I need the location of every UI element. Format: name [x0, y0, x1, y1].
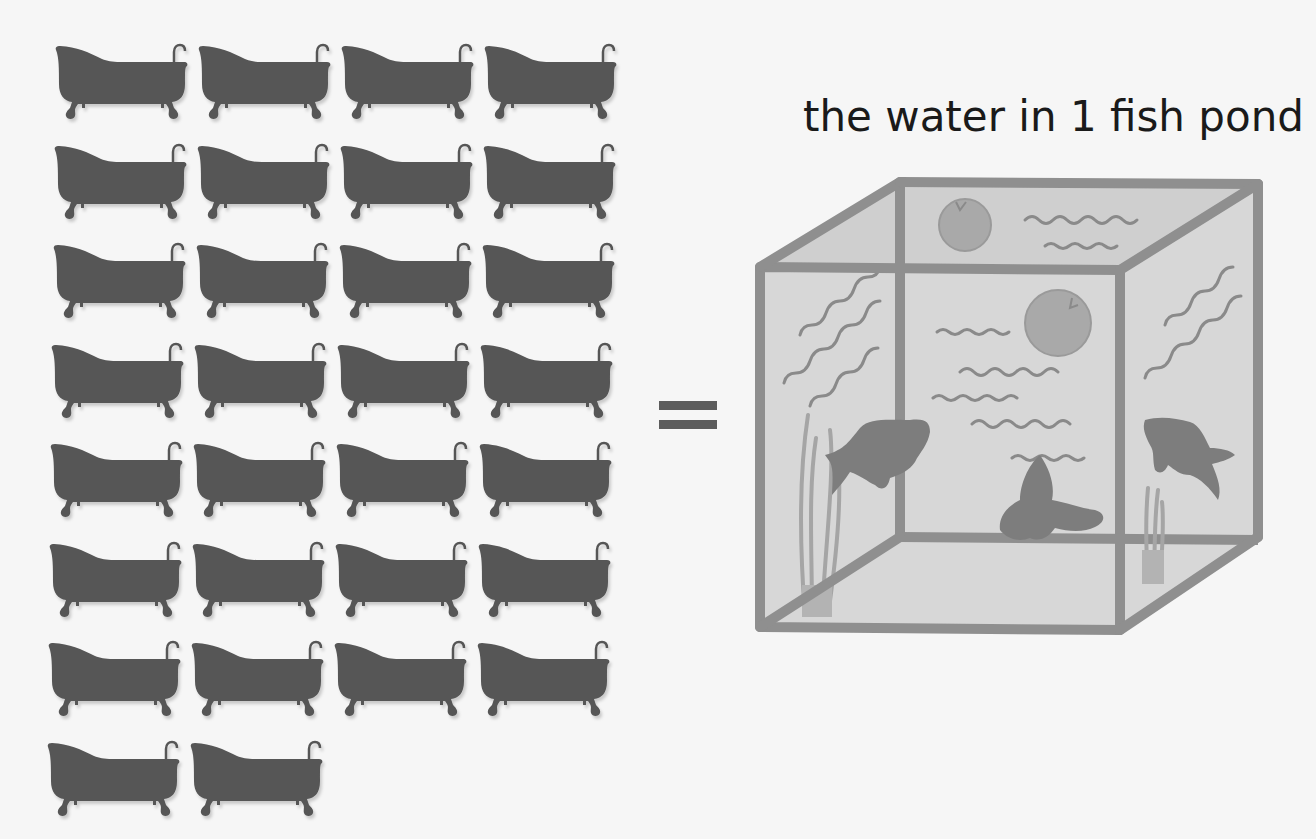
bathtub-icon: [188, 641, 330, 719]
equals-sign: [659, 401, 717, 435]
bathtub-icon: [44, 741, 186, 819]
bathtub-icon: [474, 641, 616, 719]
bathtub-icon: [187, 741, 329, 819]
bathtub-icon: [475, 542, 617, 620]
equals-bar-top: [659, 401, 717, 410]
bathtub-icon: [189, 542, 331, 620]
bathtub-icon: [195, 44, 337, 122]
bathtub-icon: [47, 442, 189, 520]
bathtub-icon: [481, 44, 623, 122]
bathtub-icon: [476, 442, 618, 520]
bathtub-icon: [52, 44, 194, 122]
bathtub-icon: [194, 144, 336, 222]
bathtub-icon: [333, 442, 475, 520]
bathtub-icon: [479, 243, 621, 321]
bathtub-icon: [48, 343, 190, 421]
fish-tank-icon: [750, 170, 1270, 650]
bathtub-icon: [334, 343, 476, 421]
bathtub-icon: [193, 243, 335, 321]
bathtub-icon: [191, 343, 333, 421]
bathtub-icon: [477, 343, 619, 421]
bathtub-icon: [45, 641, 187, 719]
bathtub-icon: [51, 144, 193, 222]
bathtub-icon: [331, 641, 473, 719]
bathtub-icon: [338, 44, 480, 122]
bathtub-icon: [337, 144, 479, 222]
bathtub-icon: [332, 542, 474, 620]
bathtub-icon: [46, 542, 188, 620]
bathtub-icon: [50, 243, 192, 321]
bathtub-icon: [480, 144, 622, 222]
bathtub-icon: [336, 243, 478, 321]
equals-bar-bottom: [659, 420, 717, 429]
bathtub-icon: [190, 442, 332, 520]
fish-pond-caption: the water in 1 fish pond: [803, 92, 1304, 141]
